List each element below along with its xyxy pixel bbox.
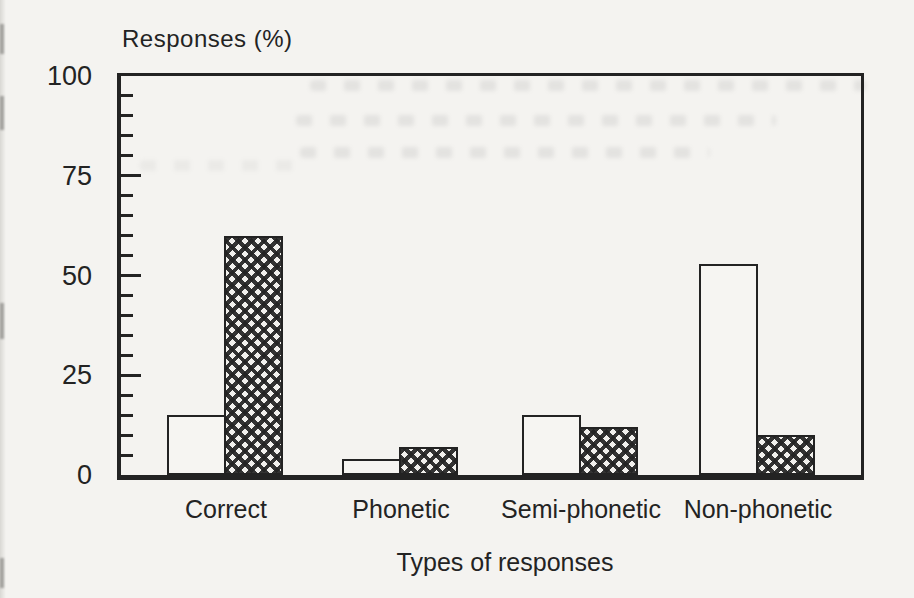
bar-semi-phonetic-open	[522, 415, 581, 475]
bar-phonetic-crosshatch	[399, 447, 458, 475]
bar-non-phonetic-crosshatch	[756, 435, 815, 475]
y-tick-label-100: 100	[47, 61, 92, 91]
scan-edge-mark	[0, 96, 4, 130]
x-axis-category-labels: CorrectPhoneticSemi-phoneticNon-phonetic	[121, 495, 861, 527]
bar-correct-open	[167, 415, 226, 475]
scan-edge-artifact	[0, 0, 6, 598]
category-label-semi-phonetic: Semi-phonetic	[501, 495, 661, 524]
bars-layer	[121, 76, 861, 475]
bar-correct-crosshatch	[224, 236, 283, 475]
category-label-non-phonetic: Non-phonetic	[684, 495, 833, 524]
y-tick-label-0: 0	[77, 460, 92, 490]
bar-semi-phonetic-crosshatch	[579, 427, 638, 475]
plot-area	[117, 73, 864, 480]
bar-group-correct	[167, 76, 285, 475]
y-tick-label-25: 25	[62, 360, 92, 390]
bar-group-semi-phonetic	[522, 76, 640, 475]
y-axis-tick-labels: 0255075100	[14, 76, 92, 475]
bar-group-non-phonetic	[699, 76, 817, 475]
x-axis-title: Types of responses	[397, 548, 614, 577]
scan-edge-mark	[0, 303, 4, 339]
y-tick-label-75: 75	[62, 161, 92, 191]
bar-phonetic-open	[342, 459, 401, 475]
scan-edge-mark	[0, 24, 4, 54]
scanned-book-page: Responses (%) 0255075100 CorrectPhonetic…	[0, 0, 914, 598]
category-label-correct: Correct	[185, 495, 267, 524]
category-label-phonetic: Phonetic	[352, 495, 449, 524]
y-tick-label-50: 50	[62, 261, 92, 291]
bar-non-phonetic-open	[699, 264, 758, 475]
scan-edge-mark	[0, 558, 4, 588]
y-axis-title: Responses (%)	[122, 25, 293, 53]
bar-group-phonetic	[342, 76, 460, 475]
